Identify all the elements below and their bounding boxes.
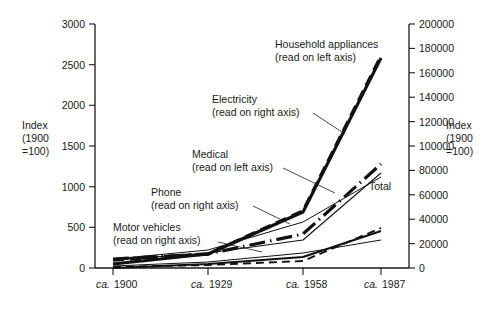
annotation-household-appliances-line1: Household appliances xyxy=(275,38,378,50)
left-tick-label-1000: 1000 xyxy=(62,181,86,193)
right-tick-label-160000: 160000 xyxy=(419,67,454,79)
x-tick-1900-prefix: ca. xyxy=(96,278,110,290)
x-tick-label-1900: ca. 1900 xyxy=(96,278,138,290)
annotation-medical: Medical (read on left axis) xyxy=(192,148,335,193)
annotation-household-appliances-line2: (read on left axis) xyxy=(275,51,356,63)
x-axis: ca. 1900 ca. 1929 ca. 1958 ca. 1987 xyxy=(95,268,409,290)
right-tick-label-40000: 40000 xyxy=(419,213,448,225)
annotation-total: Total xyxy=(369,180,391,192)
annotation-medical-line2: (read on left axis) xyxy=(192,161,273,173)
annotation-phone-leader xyxy=(253,206,290,224)
x-tick-label-1929: ca. 1929 xyxy=(191,278,233,290)
left-axis-caption: Index (1900 =100) xyxy=(22,119,49,157)
x-tick-label-1958: ca. 1958 xyxy=(286,278,328,290)
annotation-motor-vehicles-line2: (read on right axis) xyxy=(113,234,201,246)
annotation-motor-vehicles: Motor vehicles (read on right axis) xyxy=(113,221,262,252)
left-axis-caption-line1: Index xyxy=(22,119,48,131)
left-axis-caption-line3: =100) xyxy=(22,145,49,157)
right-axis-caption-line1: Index xyxy=(446,119,472,131)
right-axis-caption-line2: (1900 xyxy=(446,132,473,144)
right-tick-label-200000: 200000 xyxy=(419,18,454,30)
annotation-medical-leader xyxy=(283,168,335,193)
right-tick-label-20000: 20000 xyxy=(419,238,448,250)
left-tick-label-2000: 2000 xyxy=(62,99,86,111)
right-axis-caption-line3: =100) xyxy=(446,145,473,157)
left-axis: 3000 2500 2000 1500 1000 500 0 xyxy=(62,18,95,274)
left-tick-label-2500: 2500 xyxy=(62,59,86,71)
annotation-phone: Phone (read on right axis) xyxy=(151,186,290,224)
x-tick-1900-year: 1900 xyxy=(114,278,138,290)
annotation-electricity-leader xyxy=(313,113,345,134)
x-tick-1929-prefix: ca. xyxy=(191,278,205,290)
left-tick-label-3000: 3000 xyxy=(62,18,86,30)
x-tick-label-1987: ca. 1987 xyxy=(364,278,406,290)
annotation-medical-line1: Medical xyxy=(192,148,228,160)
right-tick-label-60000: 60000 xyxy=(419,189,448,201)
left-axis-caption-line2: (1900 xyxy=(22,132,49,144)
left-tick-label-500: 500 xyxy=(67,221,85,233)
left-tick-label-1500: 1500 xyxy=(62,140,86,152)
annotation-total-label: Total xyxy=(369,180,391,192)
annotation-electricity-line1: Electricity xyxy=(212,93,258,105)
right-tick-label-80000: 80000 xyxy=(419,164,448,176)
x-tick-1929-year: 1929 xyxy=(209,278,233,290)
annotation-household-appliances: Household appliances (read on left axis) xyxy=(275,38,378,63)
x-tick-1958-prefix: ca. xyxy=(286,278,300,290)
annotation-motor-vehicles-line1: Motor vehicles xyxy=(113,221,181,233)
right-tick-label-140000: 140000 xyxy=(419,91,454,103)
right-tick-label-180000: 180000 xyxy=(419,42,454,54)
chart-container: 3000 2500 2000 1500 1000 500 0 Index (19… xyxy=(0,0,496,309)
right-axis-caption: Index (1900 =100) xyxy=(446,119,473,157)
annotation-phone-line1: Phone xyxy=(151,186,182,198)
annotation-phone-line2: (read on right axis) xyxy=(151,199,239,211)
annotation-electricity-line2: (read on right axis) xyxy=(212,106,300,118)
index-growth-line-chart: 3000 2500 2000 1500 1000 500 0 Index (19… xyxy=(0,0,496,309)
right-tick-label-0: 0 xyxy=(419,262,425,274)
left-tick-label-0: 0 xyxy=(79,262,85,274)
annotation-electricity: Electricity (read on right axis) xyxy=(212,93,345,134)
x-tick-1958-year: 1958 xyxy=(304,278,328,290)
x-tick-1987-year: 1987 xyxy=(382,278,406,290)
x-tick-1987-prefix: ca. xyxy=(364,278,378,290)
